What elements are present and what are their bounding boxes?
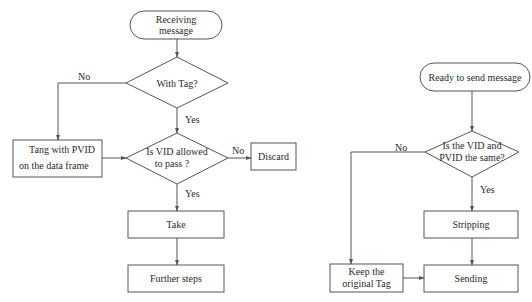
- receiving-message-line2: message: [159, 25, 193, 36]
- stripping-label: Stripping: [424, 211, 518, 238]
- vid-allowed-label: Is VID allowed to pass ?: [140, 146, 214, 170]
- discard-label: Discard: [251, 143, 296, 170]
- tag-pvid-line1: Tang with PVID: [13, 142, 102, 158]
- ready-to-send-label: Ready to send message: [420, 63, 530, 91]
- take-label: Take: [128, 211, 224, 238]
- vid-pvid-same-line1: Is the VID and: [443, 140, 502, 152]
- tag-pvid-label: Tang with PVID on the data frame: [13, 142, 102, 176]
- with-tag-no-label: No: [78, 71, 90, 82]
- with-tag-yes-label: Yes: [185, 114, 200, 125]
- same-no-label: No: [395, 142, 407, 153]
- receiving-message-line1: Receiving: [156, 14, 197, 25]
- same-yes-label: Yes: [480, 184, 495, 195]
- vid-allowed-line2: to pass ?: [155, 158, 189, 170]
- vid-yes-label: Yes: [185, 188, 200, 199]
- keep-tag-label: Keep the original Tag: [330, 264, 403, 292]
- vid-pvid-same-label: Is the VID and PVID the same?: [430, 140, 514, 164]
- keep-tag-line2: original Tag: [342, 278, 390, 290]
- receiving-message-label: Receiving message: [130, 11, 222, 39]
- vid-allowed-line1: Is VID allowed: [146, 146, 207, 158]
- sending-label: Sending: [424, 265, 518, 292]
- edge-same-no: [351, 152, 425, 264]
- further-steps-label: Further steps: [128, 265, 224, 292]
- with-tag-label: With Tag?: [140, 76, 214, 90]
- edge-withtag-no: [58, 83, 126, 140]
- vid-pvid-same-line2: PVID the same?: [439, 152, 505, 164]
- tag-pvid-line2: on the data frame: [13, 158, 102, 174]
- keep-tag-line1: Keep the: [349, 266, 385, 278]
- vid-no-label: No: [232, 145, 244, 156]
